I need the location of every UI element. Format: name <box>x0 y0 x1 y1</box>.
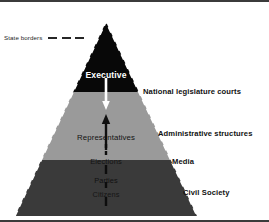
side-label-civil-society: Civil Society <box>183 188 229 197</box>
legend-label: State borders <box>4 34 42 41</box>
label-parties: Parties <box>94 176 118 185</box>
label-representatives: Representatives <box>77 133 135 142</box>
label-elections: Elections <box>90 157 122 166</box>
label-executive: Executive <box>85 70 126 80</box>
pyramid-diagram: State borders Executive Representatives … <box>0 0 269 222</box>
label-citizens: Citizens <box>92 190 119 199</box>
band-administration <box>0 92 269 160</box>
legend-state-borders: State borders <box>4 34 84 41</box>
side-label-national-legislature-courts: National legislature courts <box>143 87 241 96</box>
side-label-media: Media <box>172 157 194 166</box>
legend-dash-icon <box>48 37 84 39</box>
side-label-administrative-structures: Administrative structures <box>158 129 253 138</box>
band-executive <box>0 20 269 92</box>
